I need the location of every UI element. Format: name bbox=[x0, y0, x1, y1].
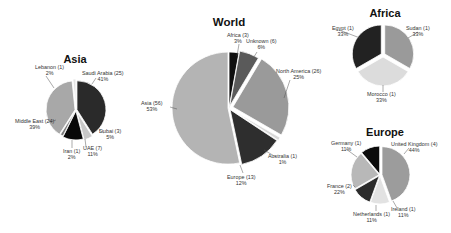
asia-label-iran: Iran (1)2% bbox=[63, 148, 80, 160]
asia-pie bbox=[46, 79, 106, 140]
europe-label-germany: Germany (1)11% bbox=[331, 140, 361, 152]
africa-label-sudan: Sudan (1)33% bbox=[406, 25, 430, 37]
pie-charts-canvas bbox=[0, 0, 451, 233]
world-pie bbox=[172, 51, 289, 164]
europe-label-france: France (2)22% bbox=[327, 183, 352, 195]
asia-label-uae: UAE (7)11% bbox=[83, 145, 102, 157]
world-label-unknown: Unknown (6)6% bbox=[246, 38, 277, 50]
world-label-asia: Asia (56)53% bbox=[141, 100, 163, 112]
africa-label-egypt: Egypt (1)33% bbox=[332, 25, 354, 37]
world-title: World bbox=[199, 16, 259, 28]
africa-pie bbox=[352, 25, 413, 86]
asia-label-saudi-arabia: Saudi Arabia (25)41% bbox=[82, 70, 124, 82]
europe-title: Europe bbox=[355, 126, 415, 138]
world-label-north-america: North America (26)25% bbox=[276, 68, 321, 80]
world-label-europe: Europe (13)12% bbox=[227, 174, 255, 186]
europe-label-ireland: Ireland (1)11% bbox=[391, 206, 416, 218]
asia-label-dubai: Dubai (3)5% bbox=[99, 128, 121, 140]
asia-label-middle-east: Middle East (24)39% bbox=[15, 118, 54, 130]
world-label-africa-pct: 3% bbox=[234, 38, 242, 44]
world-label-australia: Australia (1)1% bbox=[268, 153, 297, 165]
africa-title: Africa bbox=[360, 7, 410, 19]
europe-pie bbox=[351, 146, 410, 204]
europe-label-netherlands: Netherlands (1)11% bbox=[353, 211, 390, 223]
asia-label-lebanon: Lebanon (1)2% bbox=[35, 64, 64, 76]
europe-label-united-kingdom: United Kingdom (4)44% bbox=[391, 141, 437, 153]
africa-label-morocco: Morocco (1)33% bbox=[367, 91, 396, 103]
